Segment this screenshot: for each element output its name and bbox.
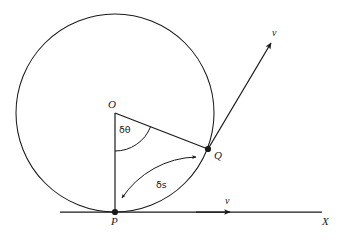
label-velocity-q: v [272,28,276,38]
velocity-vector-at-q [208,43,271,149]
point-marker-q [205,146,211,152]
label-point-p: P [111,216,118,227]
label-axis-x: X [322,216,329,227]
label-velocity-p: v [225,196,229,206]
label-point-o: O [108,99,116,110]
physics-diagram-figure: O P Q δθ δs v v X [0,0,341,240]
diagram-canvas [0,0,341,240]
arc-length-indicator-delta-s [122,157,196,198]
label-delta-theta: δθ [119,125,131,135]
label-point-q: Q [214,150,222,161]
label-delta-s: δs [156,180,167,190]
